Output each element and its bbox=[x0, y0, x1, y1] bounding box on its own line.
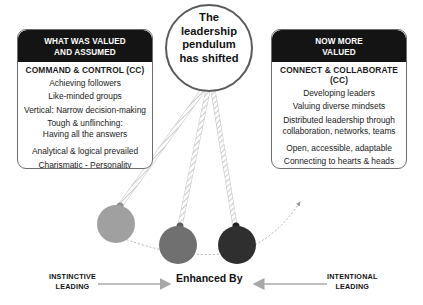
title-line2: leadership bbox=[166, 25, 252, 39]
instinctive-line1: INSTINCTIVE bbox=[49, 272, 96, 282]
right-box-subtitle: CONNECT & COLLABORATE (CC) bbox=[272, 65, 406, 85]
right-header-line2: VALUED bbox=[274, 47, 404, 58]
title-line1: The bbox=[166, 11, 252, 25]
list-item: Developing leaders bbox=[272, 88, 406, 99]
swing-arc bbox=[108, 202, 300, 255]
instinctive-leading-label: INSTINCTIVE LEADING bbox=[49, 272, 96, 292]
connect-collaborate-box: NOW MORE VALUED CONNECT & COLLABORATE (C… bbox=[271, 29, 407, 169]
title-line4: has shifted bbox=[166, 52, 252, 66]
ball-light bbox=[97, 203, 135, 244]
left-box-list: Achieving followers Like-minded groups V… bbox=[18, 78, 152, 170]
right-box-header: NOW MORE VALUED bbox=[272, 30, 406, 62]
intentional-line2: LEADING bbox=[327, 282, 378, 292]
pendulum-title: The leadership pendulum has shifted bbox=[166, 11, 252, 65]
left-header-line2: AND ASSUMED bbox=[20, 47, 150, 58]
ball-dark bbox=[218, 223, 256, 265]
left-box-subtitle: COMMAND & CONTROL (CC) bbox=[18, 65, 152, 75]
right-header-line1: NOW MORE bbox=[274, 36, 404, 47]
list-item: Distributed leadership through bbox=[272, 115, 406, 126]
intentional-leading-label: INTENTIONAL LEADING bbox=[327, 272, 378, 292]
list-item: Open, accessible, adaptable bbox=[272, 143, 406, 154]
list-item: Analytical & logical prevailed bbox=[18, 146, 152, 157]
list-item: Charismatic - Personality bbox=[18, 160, 152, 170]
list-item: collaboration, networks, teams bbox=[272, 126, 406, 137]
list-item: Tough & unflinching: bbox=[18, 118, 152, 129]
left-box-header: WHAT WAS VALUED AND ASSUMED bbox=[18, 30, 152, 62]
ball-mid bbox=[159, 223, 197, 265]
list-item: Vertical: Narrow decision-making bbox=[18, 105, 152, 116]
instinctive-line2: LEADING bbox=[49, 282, 96, 292]
intentional-line1: INTENTIONAL bbox=[327, 272, 378, 282]
list-item: Connecting to hearts & heads bbox=[272, 156, 406, 167]
list-item: Valuing diverse mindsets bbox=[272, 101, 406, 112]
list-item: Achieving followers bbox=[18, 78, 152, 89]
command-control-box: WHAT WAS VALUED AND ASSUMED COMMAND & CO… bbox=[17, 29, 153, 169]
list-item: Having all the answers bbox=[18, 129, 152, 140]
list-item: Like-minded groups bbox=[18, 91, 152, 102]
left-header-line1: WHAT WAS VALUED bbox=[20, 36, 150, 47]
title-line3: pendulum bbox=[166, 38, 252, 52]
enhanced-by-label: Enhanced By bbox=[176, 272, 243, 284]
right-box-list: Developing leaders Valuing diverse minds… bbox=[272, 88, 406, 170]
